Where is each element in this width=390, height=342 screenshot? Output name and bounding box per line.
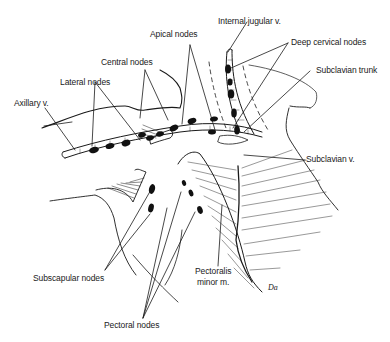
deep-cervical-node xyxy=(225,65,231,74)
lateral-node xyxy=(88,146,99,154)
pectoralis-minor-tendon xyxy=(218,135,248,144)
label-internal-jugular-v: Internal jugular v. xyxy=(218,16,281,27)
lateral-node xyxy=(105,142,115,150)
artist-signature: Da xyxy=(267,283,278,292)
label-pectoralis-minor-line1: Pectoralis xyxy=(195,266,231,277)
label-pectoralis-minor: Pectoralis minor m. xyxy=(195,266,231,287)
lower-arm-outline xyxy=(50,195,136,275)
label-lateral-nodes: Lateral nodes xyxy=(60,77,110,88)
neck-shoulder-outline xyxy=(249,65,317,108)
central-node xyxy=(145,135,154,142)
pectoral-node xyxy=(188,189,195,197)
label-deep-cervical-nodes: Deep cervical nodes xyxy=(291,37,366,48)
label-pectoral-nodes: Pectoral nodes xyxy=(104,320,159,331)
subscapular-node xyxy=(147,203,155,213)
central-node xyxy=(169,123,180,132)
axillary-vein-end xyxy=(62,152,65,158)
label-subclavian-v: Subclavian v. xyxy=(306,154,355,165)
pectoral-node xyxy=(181,179,187,186)
label-central-nodes: Central nodes xyxy=(101,57,153,68)
lateral-node xyxy=(121,138,132,147)
label-subscapular-nodes: Subscapular nodes xyxy=(33,273,104,284)
axillary-lymph-node-diagram: Da xyxy=(0,0,390,342)
deep-cervical-node xyxy=(231,109,237,118)
central-node xyxy=(155,131,164,138)
pectoralis-minor-inner xyxy=(236,166,252,282)
label-pectoralis-minor-line2: minor m. xyxy=(195,277,231,288)
label-axillary-v: Axillary v. xyxy=(14,98,49,109)
deep-cervical-node xyxy=(227,79,232,86)
label-subclavian-trunk: Subclavian trunk xyxy=(316,65,377,76)
deep-cervical-node xyxy=(234,126,240,135)
deep-cervical-node xyxy=(228,90,235,99)
pectoral-node xyxy=(196,205,204,214)
label-apical-nodes: Apical nodes xyxy=(150,29,197,40)
